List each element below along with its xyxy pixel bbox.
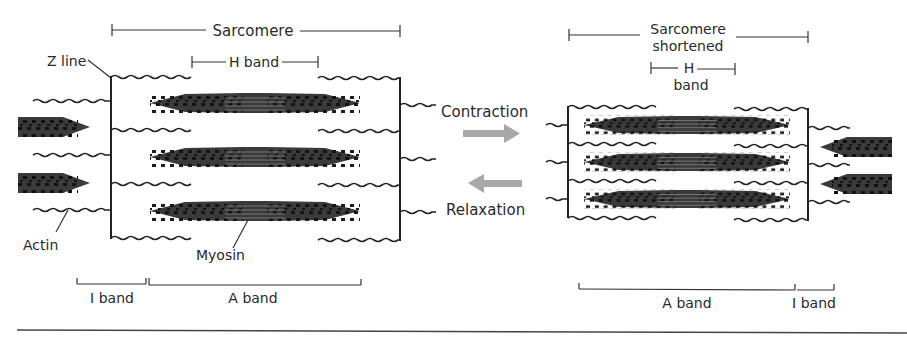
- a-band-label-relaxed: A band: [228, 290, 277, 306]
- relaxation-arrow-icon: [468, 174, 522, 193]
- actin-filaments-right-outer: [400, 104, 436, 214]
- myosin-fragments-left: [18, 116, 90, 194]
- h-band-bracket-contracted: H band: [651, 60, 735, 93]
- sarcomere-shortened-label-line2: shortened: [653, 38, 724, 54]
- i-band-label-contracted: I band: [792, 295, 836, 311]
- h-band-bracket: H band: [192, 54, 318, 70]
- a-band-bracket-contracted: A band: [579, 283, 795, 311]
- sarcomere-shortened-bracket: Sarcomere shortened: [569, 21, 808, 54]
- h-band-label-contracted-line2: band: [673, 77, 708, 93]
- myosin-fragments-right: [820, 136, 892, 195]
- myosin-filaments: [150, 92, 360, 222]
- relaxed-sarcomere: Sarcomere H band Z line: [18, 22, 436, 306]
- z-line-label: Z line: [47, 53, 86, 69]
- i-band-bracket-contracted: I band: [792, 284, 836, 311]
- h-band-label-contracted-line1: H: [684, 60, 695, 76]
- a-band-label-contracted: A band: [662, 295, 711, 311]
- relaxation-label: Relaxation: [446, 201, 525, 219]
- actin-filaments-left-outer-contracted: [546, 124, 568, 201]
- contraction-label: Contraction: [441, 103, 528, 121]
- sarcomere-bracket: Sarcomere: [112, 22, 400, 40]
- myosin-label: Myosin: [196, 247, 245, 263]
- i-band-bracket: I band: [77, 278, 146, 306]
- contracted-sarcomere: Sarcomere shortened H band: [546, 21, 892, 311]
- h-band-label: H band: [229, 54, 279, 70]
- sarcomere-shortened-label-line1: Sarcomere: [650, 21, 726, 37]
- i-band-label-relaxed: I band: [90, 290, 134, 306]
- sarcomere-label: Sarcomere: [213, 22, 294, 40]
- sarcomere-diagram: Sarcomere H band Z line: [0, 0, 907, 338]
- contraction-arrow-icon: [463, 124, 520, 143]
- myosin-filaments-contracted: [584, 115, 790, 209]
- actin-label: Actin: [23, 237, 58, 253]
- bottom-rule: [17, 330, 907, 333]
- transition-arrows: Contraction Relaxation: [441, 103, 528, 219]
- a-band-bracket: A band: [149, 278, 361, 306]
